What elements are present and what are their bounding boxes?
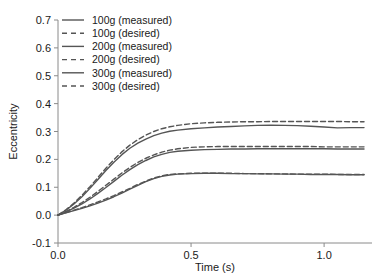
- y-axis-title: Eccentricity: [7, 103, 19, 160]
- legend-layer: 100g (measured)100g (desired)200g (measu…: [62, 14, 172, 92]
- series-line-1: [58, 173, 364, 215]
- legend-label-3: 200g (desired): [92, 53, 160, 65]
- legend-label-5: 300g (desired): [92, 80, 160, 92]
- axis-layer: -0.10.00.10.20.30.40.50.60.70.00.51.0: [32, 14, 372, 261]
- y-tick-label: 0.2: [36, 153, 51, 165]
- legend-label-0: 100g (measured): [92, 14, 172, 26]
- x-axis-title: Time (s): [195, 261, 235, 273]
- series-line-3: [58, 147, 364, 216]
- y-tick-label: 0.5: [36, 70, 51, 82]
- chart-figure: -0.10.00.10.20.30.40.50.60.70.00.51.0 10…: [0, 0, 378, 277]
- y-tick-label: 0.7: [36, 14, 51, 26]
- legend-label-4: 300g (measured): [92, 67, 172, 79]
- x-tick-label: 0.5: [183, 249, 198, 261]
- y-tick-label: 0.6: [36, 42, 51, 54]
- y-tick-label: 0.3: [36, 126, 51, 138]
- series-layer: [58, 121, 364, 215]
- eccentricity-time-line-chart: -0.10.00.10.20.30.40.50.60.70.00.51.0 10…: [0, 0, 378, 277]
- legend-label-1: 100g (desired): [92, 27, 160, 39]
- series-line-2: [58, 149, 364, 215]
- y-tick-label: -0.1: [32, 237, 51, 249]
- y-tick-label: 0.4: [36, 98, 51, 110]
- y-tick-label: 0.1: [36, 181, 51, 193]
- x-tick-label: 1.0: [316, 249, 331, 261]
- legend-label-2: 200g (measured): [92, 40, 172, 52]
- x-tick-label: 0.0: [50, 249, 65, 261]
- y-tick-label: 0.0: [36, 209, 51, 221]
- series-line-0: [58, 173, 364, 215]
